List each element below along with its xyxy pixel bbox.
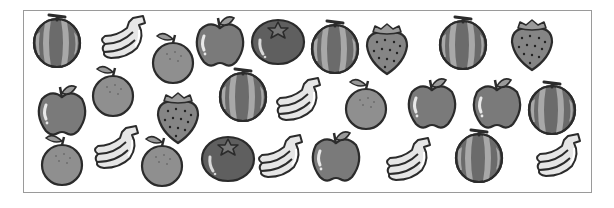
fruit-tomato: tomato <box>248 10 308 70</box>
fruit-strawberry: strawberry <box>357 18 417 78</box>
orange-icon <box>132 133 192 193</box>
fruit-melon: melon <box>27 11 87 71</box>
fruit-apple: apple <box>467 74 527 134</box>
apple-icon <box>190 12 250 72</box>
fruit-strawberry: strawberry <box>502 14 562 74</box>
fruit-orange: orange <box>83 63 143 123</box>
apple-icon <box>467 74 527 134</box>
fruit-apple: apple <box>190 12 250 72</box>
strawberry-icon <box>502 14 562 74</box>
banana-icon <box>380 132 440 192</box>
tomato-icon <box>198 127 258 187</box>
orange-icon <box>32 132 92 192</box>
fruit-melon: melon <box>213 65 273 125</box>
apple-icon <box>402 74 462 134</box>
melon-icon <box>449 126 509 186</box>
fruit-melon: melon <box>433 13 493 73</box>
orange-icon <box>83 63 143 123</box>
fruit-melon: melon <box>305 17 365 77</box>
fruit-banana: banana <box>270 72 330 132</box>
fruit-banana: banana <box>530 128 590 188</box>
fruit-orange: orange <box>32 132 92 192</box>
melon-icon <box>27 11 87 71</box>
melon-icon <box>213 65 273 125</box>
fruit-banana: banana <box>252 129 312 189</box>
melon-icon <box>305 17 365 77</box>
fruit-tomato: tomato <box>198 127 258 187</box>
melon-icon <box>433 13 493 73</box>
fruit-apple: apple <box>402 74 462 134</box>
fruit-label: orange <box>132 193 133 194</box>
fruit-apple: apple <box>306 127 366 187</box>
tomato-icon <box>248 10 308 70</box>
banana-icon <box>270 72 330 132</box>
strawberry-icon <box>357 18 417 78</box>
fruit-banana: banana <box>380 132 440 192</box>
apple-icon <box>306 127 366 187</box>
fruit-orange: orange <box>132 133 192 193</box>
banana-icon <box>252 129 312 189</box>
banana-icon <box>530 128 590 188</box>
fruit-melon: melon <box>449 126 509 186</box>
